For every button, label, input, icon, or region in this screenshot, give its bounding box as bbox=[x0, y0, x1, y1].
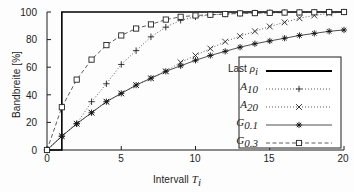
data-point-marker bbox=[163, 24, 169, 30]
data-point-marker bbox=[148, 75, 154, 81]
data-point-marker bbox=[222, 39, 228, 45]
data-point-marker bbox=[148, 22, 153, 27]
data-point-marker bbox=[267, 10, 272, 15]
data-point-marker bbox=[252, 11, 257, 16]
legend-label-subscript: i bbox=[255, 65, 258, 77]
data-point-marker bbox=[237, 33, 243, 39]
legend-label-a10: A10 bbox=[180, 80, 258, 95]
legend-label-subscript: 0.1 bbox=[244, 119, 258, 131]
ytick-label-20: 20 bbox=[9, 117, 37, 128]
data-point-marker bbox=[44, 147, 49, 152]
legend-label-subscript: 0.3 bbox=[244, 137, 258, 149]
data-point-marker bbox=[282, 35, 288, 41]
data-point-marker bbox=[327, 10, 332, 15]
xtick-label-5: 5 bbox=[106, 153, 136, 164]
data-point-marker bbox=[178, 14, 183, 19]
data-point-marker bbox=[59, 133, 65, 139]
data-point-marker bbox=[237, 44, 243, 50]
xtick-label-10: 10 bbox=[180, 153, 210, 164]
data-point-marker bbox=[222, 48, 228, 54]
ytick-label-100: 100 bbox=[9, 7, 37, 18]
legend-label-symbol: A bbox=[240, 80, 247, 92]
data-point-marker bbox=[341, 27, 347, 33]
data-point-marker bbox=[89, 57, 94, 62]
x-axis-title-prefix: Intervall bbox=[153, 174, 192, 185]
xtick-label-20: 20 bbox=[328, 153, 354, 164]
data-point-marker bbox=[88, 110, 94, 116]
xtick-label-0: 0 bbox=[32, 153, 62, 164]
legend-label-text: Last bbox=[228, 63, 250, 74]
data-point-marker bbox=[326, 28, 332, 34]
x-axis-title-subscript: i bbox=[198, 176, 201, 188]
legend-label-subscript: 10 bbox=[247, 83, 258, 95]
data-point-marker bbox=[193, 13, 198, 18]
data-point-marker bbox=[237, 11, 242, 16]
data-point-marker bbox=[148, 34, 154, 40]
data-point-marker bbox=[208, 12, 213, 17]
legend-key-marker bbox=[296, 122, 302, 128]
data-point-marker bbox=[207, 52, 213, 58]
legend-label-subscript: 20 bbox=[247, 101, 258, 113]
y-axis-title: Bandbreite [%] bbox=[11, 51, 22, 118]
legend-label-g03: G0.3 bbox=[180, 134, 258, 149]
data-point-marker bbox=[311, 30, 317, 36]
data-point-marker bbox=[74, 77, 79, 82]
data-point-marker bbox=[59, 105, 64, 110]
data-point-marker bbox=[312, 10, 317, 15]
legend-label-g01: G0.1 bbox=[180, 116, 258, 131]
ytick-label-80: 80 bbox=[9, 34, 37, 45]
legend-label-last-rho: Last ρi bbox=[180, 62, 258, 77]
data-point-marker bbox=[104, 43, 109, 48]
data-point-marker bbox=[252, 28, 258, 34]
x-axis-title: Intervall Ti bbox=[0, 173, 354, 188]
data-point-marker bbox=[103, 81, 109, 87]
xtick-label-15: 15 bbox=[254, 153, 284, 164]
data-point-marker bbox=[252, 41, 258, 47]
data-point-marker bbox=[267, 38, 273, 44]
data-point-marker bbox=[103, 99, 109, 105]
data-point-marker bbox=[133, 82, 139, 88]
data-point-marker bbox=[133, 47, 139, 53]
data-point-marker bbox=[163, 17, 168, 22]
data-point-marker bbox=[118, 90, 124, 96]
data-point-marker bbox=[297, 10, 302, 15]
data-point-marker bbox=[282, 10, 287, 15]
data-point-marker bbox=[74, 121, 80, 127]
legend-label-symbol: A bbox=[240, 98, 247, 110]
data-point-marker bbox=[282, 19, 288, 25]
data-point-marker bbox=[163, 68, 169, 74]
legend-label-a20: A20 bbox=[180, 98, 258, 113]
data-point-marker bbox=[207, 46, 213, 52]
data-point-marker bbox=[223, 11, 228, 16]
data-point-marker bbox=[341, 9, 346, 14]
chart-figure: 100 80 60 40 20 0 0 5 10 15 20 Bandbreit… bbox=[0, 0, 354, 192]
data-point-marker bbox=[134, 26, 139, 31]
data-point-marker bbox=[119, 33, 124, 38]
data-point-marker bbox=[297, 15, 303, 21]
legend-key-marker bbox=[296, 140, 301, 145]
data-point-marker bbox=[267, 24, 273, 30]
data-point-marker bbox=[296, 32, 302, 38]
